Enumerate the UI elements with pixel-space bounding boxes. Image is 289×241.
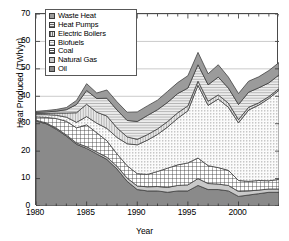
y-axis-title: Heat Produced (TWh/yr): [15, 23, 25, 143]
legend-swatch-icon: [49, 31, 55, 37]
x-tick-label: 1980: [20, 208, 50, 217]
y-tick-label: 10: [8, 173, 30, 182]
y-tick-label: 70: [8, 9, 30, 18]
legend-swatch-icon: [49, 13, 55, 19]
x-tick-label: 1985: [71, 208, 101, 217]
legend-item-label: Oil: [58, 65, 67, 73]
legend-swatch-icon: [49, 40, 55, 46]
legend-swatch-icon: [49, 66, 55, 72]
y-tick-label: 20: [8, 146, 30, 155]
legend-swatch-icon: [49, 48, 55, 54]
legend-item-oil[interactable]: Oil: [48, 65, 133, 73]
x-tick-label: 2000: [223, 208, 253, 217]
legend-item-label: Waste Heat: [58, 12, 96, 20]
legend-item-heat-pumps[interactable]: Heat Pumps: [48, 21, 133, 29]
legend-item-electric-boilers[interactable]: Electric Boilers: [48, 30, 133, 38]
x-tick-label: 1995: [172, 208, 202, 217]
legend-item-label: Heat Pumps: [58, 21, 98, 29]
legend-item-label: Electric Boilers: [58, 30, 106, 38]
legend-item-label: Natural Gas: [58, 56, 97, 64]
legend-swatch-icon: [49, 22, 55, 28]
x-axis-title: Year: [0, 226, 289, 236]
figure: 010203040506070 19801985199019952000 Hea…: [0, 0, 289, 241]
x-tick-label: 1990: [121, 208, 151, 217]
legend-swatch-icon: [49, 57, 55, 63]
legend: Waste HeatHeat PumpsElectric BoilersBiof…: [45, 9, 137, 76]
